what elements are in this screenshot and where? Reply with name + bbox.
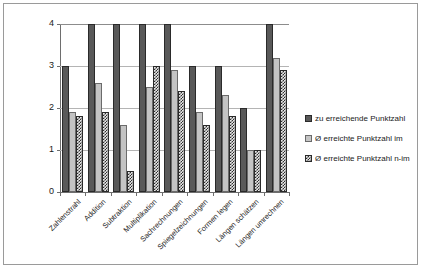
x-axis-tick-mark xyxy=(111,192,112,196)
bar-group xyxy=(215,24,236,192)
bar-group xyxy=(266,24,287,192)
x-axis-tick-mark xyxy=(162,192,163,196)
chart-legend: zu erreichende PunktzahlØ erreichte Punk… xyxy=(305,114,423,174)
bar xyxy=(153,66,160,192)
x-axis-tick-mark xyxy=(136,192,137,196)
bar xyxy=(215,66,222,192)
legend-item[interactable]: Ø erreichte Punktzahl im xyxy=(305,134,423,143)
bar xyxy=(222,95,229,192)
bar xyxy=(203,125,210,192)
bar xyxy=(120,125,127,192)
x-axis-category-label: Zahlenstrahl xyxy=(48,198,83,233)
x-axis-category-label: Längen umrechnen xyxy=(235,198,286,249)
bar-group xyxy=(88,24,109,192)
y-axis-tick-label: 2 xyxy=(42,103,54,112)
legend-item[interactable]: zu erreichende Punktzahl xyxy=(305,114,423,123)
bar xyxy=(178,91,185,192)
x-axis-line xyxy=(60,192,290,193)
bar xyxy=(102,112,109,192)
bar xyxy=(196,112,203,192)
x-axis-tick-mark xyxy=(264,192,265,196)
x-axis-tick-mark xyxy=(60,192,61,196)
bar-group xyxy=(189,24,210,192)
bar-group xyxy=(240,24,261,192)
x-axis-tick-mark xyxy=(187,192,188,196)
legend-label: Ø erreichte Punktzahl im xyxy=(315,134,403,143)
bar xyxy=(76,116,83,192)
legend-label: zu erreichende Punktzahl xyxy=(315,114,405,123)
bar xyxy=(146,87,153,192)
bar xyxy=(164,24,171,192)
bar xyxy=(88,24,95,192)
y-axis-tick-label: 4 xyxy=(42,19,54,28)
bar xyxy=(254,150,261,192)
y-axis-tick-label: 0 xyxy=(42,187,54,196)
x-axis-tick-mark xyxy=(85,192,86,196)
bar xyxy=(62,66,69,192)
chart-frame: 01234 ZahlenstrahlAdditionSubtraktionMul… xyxy=(3,3,418,265)
legend-swatch-icon xyxy=(305,135,312,142)
bar xyxy=(229,116,236,192)
bar xyxy=(273,58,280,192)
plot-area xyxy=(60,24,289,192)
x-axis-tick-mark xyxy=(238,192,239,196)
bar xyxy=(247,150,254,192)
bar xyxy=(113,24,120,192)
bar-group xyxy=(139,24,160,192)
bar xyxy=(280,70,287,192)
bar-group xyxy=(164,24,185,192)
bar xyxy=(69,112,76,192)
y-axis-tick-label: 1 xyxy=(42,145,54,154)
bar xyxy=(189,66,196,192)
legend-item[interactable]: Ø erreichte Punktzahl n-im xyxy=(305,154,423,163)
bar xyxy=(240,108,247,192)
y-axis-tick-label: 3 xyxy=(42,61,54,70)
bar xyxy=(171,70,178,192)
bars-layer xyxy=(60,24,289,192)
legend-label: Ø erreichte Punktzahl n-im xyxy=(315,154,410,163)
bar xyxy=(266,24,273,192)
legend-swatch-icon xyxy=(305,155,312,162)
bar-group xyxy=(62,24,83,192)
bar xyxy=(127,171,134,192)
legend-swatch-icon xyxy=(305,115,312,122)
bar-group xyxy=(113,24,134,192)
bar xyxy=(95,83,102,192)
x-axis-tick-mark xyxy=(213,192,214,196)
bar xyxy=(139,24,146,192)
x-axis-tick-mark xyxy=(289,192,290,196)
